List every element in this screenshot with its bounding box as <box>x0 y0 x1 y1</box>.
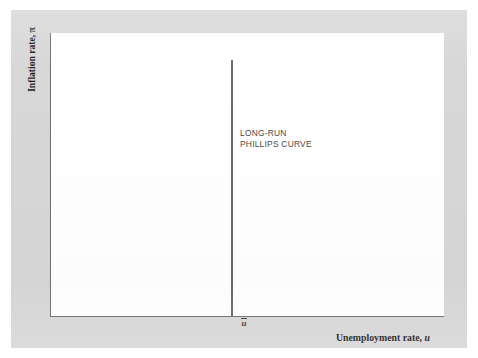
curve-label-line-1: LONG-RUN <box>240 128 312 139</box>
u-symbol: u <box>424 332 429 343</box>
figure-frame: LONG-RUN PHILLIPS CURVE u Inflation rate… <box>11 10 467 348</box>
y-axis-title-text: Inflation rate, <box>26 32 37 91</box>
curve-label-line-2: PHILLIPS CURVE <box>240 139 312 150</box>
x-axis-title-text: Unemployment rate, <box>336 332 424 343</box>
x-tick-symbol: u <box>241 318 246 328</box>
y-axis-title: Inflation rate, π <box>26 10 37 110</box>
plot-panel: LONG-RUN PHILLIPS CURVE <box>50 33 444 317</box>
long-run-phillips-curve-line <box>231 60 233 317</box>
pi-symbol: π <box>26 27 37 32</box>
y-axis-line <box>50 33 51 317</box>
x-tick-label-natural-rate: u <box>237 318 251 328</box>
x-axis-title: Unemployment rate, u <box>336 332 430 343</box>
long-run-phillips-curve-label: LONG-RUN PHILLIPS CURVE <box>240 128 312 149</box>
